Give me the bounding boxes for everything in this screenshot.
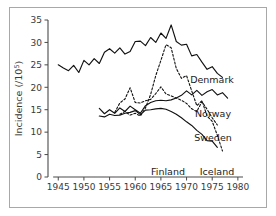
y-tick-label: 15	[31, 105, 42, 115]
y-tick-label: 10	[31, 127, 43, 137]
y-tick-label: 0	[36, 172, 42, 182]
x-tick-label: 1945	[47, 182, 70, 192]
x-axis: 19451950195519601965197019751980	[47, 177, 250, 192]
y-tick-label: 35	[31, 15, 42, 25]
x-tick-label: 1955	[98, 182, 121, 192]
series-labels-group: DenmarkNorwaySwedenFinlandIceland	[151, 74, 234, 177]
x-tick-label: 1980	[226, 182, 249, 192]
series-label-norway: Norway	[195, 108, 231, 119]
x-tick-label: 1975	[201, 182, 224, 192]
x-tick-label: 1960	[124, 182, 147, 192]
y-tick-label: 25	[31, 60, 42, 70]
series-label-finland: Finland	[151, 166, 185, 177]
y-axis: 05101520253035	[31, 15, 48, 182]
line-chart-plot: 05101520253035 1945195019551960196519701…	[0, 0, 276, 216]
y-axis-title-text: Incidence (/105)	[13, 61, 24, 137]
y-tick-label: 30	[31, 38, 43, 48]
series-line-denmark	[58, 25, 222, 77]
y-tick-label: 20	[31, 83, 43, 93]
chart-figure: 05101520253035 1945195019551960196519701…	[0, 0, 276, 216]
y-axis-title: Incidence (/105)	[13, 61, 24, 137]
series-label-sweden: Sweden	[194, 132, 232, 143]
series-label-denmark: Denmark	[190, 74, 234, 85]
y-tick-label: 5	[36, 150, 42, 160]
x-tick-label: 1950	[72, 182, 95, 192]
x-tick-label: 1965	[149, 182, 172, 192]
series-label-iceland: Iceland	[200, 166, 234, 177]
x-tick-label: 1970	[175, 182, 198, 192]
